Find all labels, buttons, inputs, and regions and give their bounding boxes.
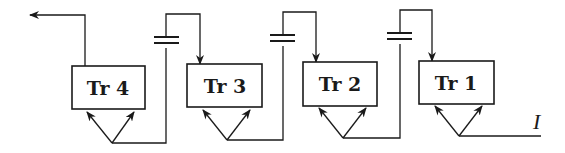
capacitor-2 [270, 12, 316, 62]
stage-tr2: Tr 2 [303, 44, 400, 138]
tr3-label: Tr 3 [204, 75, 247, 97]
capacitor-1 [387, 10, 432, 61]
stage-tr1: Tr 1 [419, 61, 541, 136]
input-label: I [532, 109, 542, 134]
tr4-label: Tr 4 [87, 77, 130, 99]
stage-tr3: Tr 3 [187, 46, 283, 140]
tr4-input-arrow-left [87, 112, 112, 143]
cascade-diagram: Tr 4 Tr 3 Tr 2 Tr 1 [0, 0, 565, 153]
stage-tr4: Tr 4 [72, 48, 166, 143]
tr1-label: Tr 1 [435, 72, 478, 94]
output-line [30, 15, 85, 66]
tr2-label: Tr 2 [319, 73, 362, 95]
capacitor-3 [154, 14, 200, 64]
tr4-input-arrow-right [112, 112, 134, 143]
